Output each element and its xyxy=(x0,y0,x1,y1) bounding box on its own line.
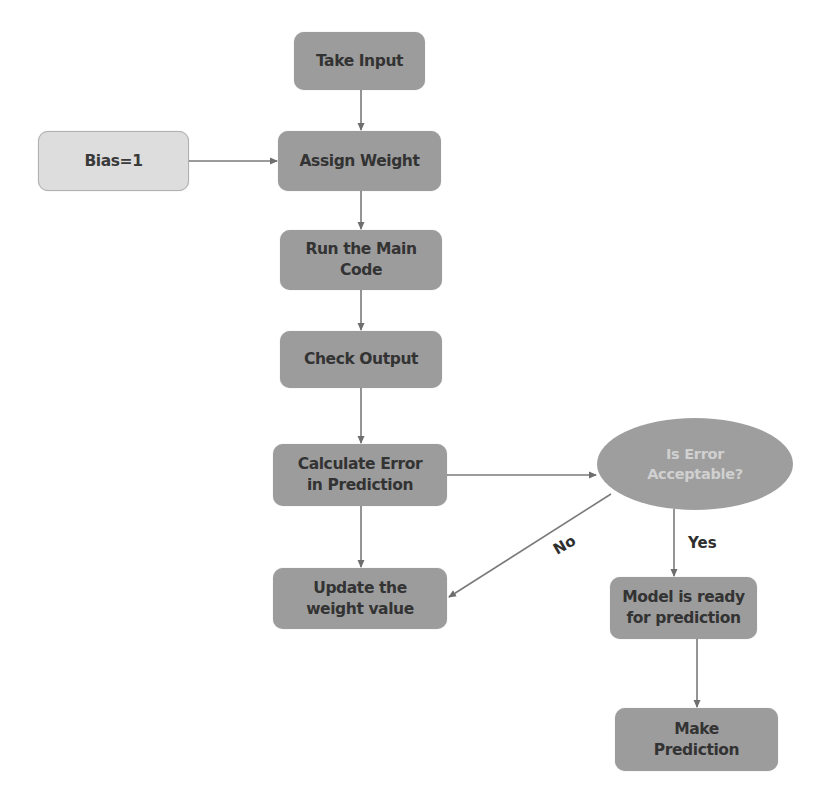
node-calculate-error-label-line2: in Prediction xyxy=(307,475,413,496)
edge-label-yes: Yes xyxy=(688,534,717,552)
node-take-input: Take Input xyxy=(294,32,425,90)
flowchart-edges xyxy=(0,0,828,793)
edge-decision-no-to-update-weight xyxy=(449,494,611,597)
node-assign-weight-label: Assign Weight xyxy=(300,151,420,172)
node-update-weight-label-line1: Update the xyxy=(313,578,407,599)
node-make-prediction-label-line2: Prediction xyxy=(654,740,740,761)
node-calculate-error-label-line1: Calculate Error xyxy=(298,454,423,475)
node-check-output: Check Output xyxy=(280,331,442,388)
node-is-error-acceptable-label-line1: Is Error xyxy=(666,444,724,464)
node-take-input-label: Take Input xyxy=(316,51,403,72)
node-model-ready-label-line1: Model is ready xyxy=(622,587,745,608)
node-update-weight: Update the weight value xyxy=(273,568,447,629)
node-run-main-code-label-line1: Run the Main xyxy=(305,239,416,260)
node-update-weight-label-line2: weight value xyxy=(306,599,414,620)
node-model-ready-label-line2: for prediction xyxy=(626,608,740,629)
node-bias-label: Bias=1 xyxy=(84,151,142,172)
node-is-error-acceptable: Is Error Acceptable? xyxy=(597,418,793,510)
node-bias: Bias=1 xyxy=(38,131,189,191)
edge-label-no: No xyxy=(550,531,579,558)
node-run-main-code-label-line2: Code xyxy=(340,260,382,281)
node-run-main-code: Run the Main Code xyxy=(280,230,442,290)
node-assign-weight: Assign Weight xyxy=(278,131,441,191)
node-make-prediction-label-line1: Make xyxy=(674,719,719,740)
flowchart-canvas: Take Input Bias=1 Assign Weight Run the … xyxy=(0,0,828,793)
node-model-ready: Model is ready for prediction xyxy=(610,577,757,639)
node-is-error-acceptable-label-line2: Acceptable? xyxy=(647,464,743,484)
node-calculate-error: Calculate Error in Prediction xyxy=(273,444,447,506)
node-make-prediction: Make Prediction xyxy=(615,708,778,771)
node-check-output-label: Check Output xyxy=(304,349,418,370)
